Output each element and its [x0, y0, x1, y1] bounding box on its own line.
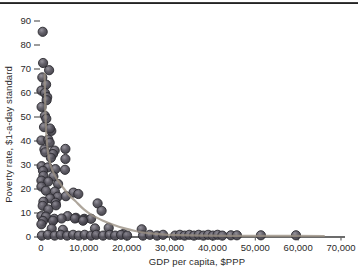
scatter-point	[38, 27, 47, 36]
y-tick-label: 50	[20, 111, 31, 122]
y-tick-label: 80	[20, 39, 31, 50]
y-tick-label: 30	[20, 159, 31, 170]
scatter-point	[57, 214, 66, 223]
x-tick-label: 70,000	[326, 242, 355, 253]
y-tick-label: 90	[20, 15, 31, 26]
y-tick-label: 70	[20, 63, 31, 74]
scatter-point	[45, 66, 54, 75]
x-tick-label: 10,000	[69, 242, 98, 253]
x-tick-label: 60,000	[284, 242, 313, 253]
x-tick-label: 40,000	[198, 242, 227, 253]
scatter-point	[78, 216, 87, 225]
scatter-point	[74, 189, 83, 198]
y-tick-label: 10	[20, 207, 31, 218]
scatter-point	[123, 231, 132, 240]
y-tick-label: 60	[20, 87, 31, 98]
scatter-plot-area: 0102030405060708090010,00020,00030,00040…	[0, 0, 358, 272]
scatter-point	[60, 165, 69, 174]
scatter-point	[61, 154, 70, 163]
scatter-point	[97, 206, 106, 215]
x-tick-label: 0	[38, 242, 43, 253]
y-tick-label: 0	[26, 231, 31, 242]
poverty-gdp-figure: Poverty rate, $1-a-day standard GDP per …	[0, 0, 358, 272]
x-tick-label: 30,000	[155, 242, 184, 253]
scatter-point	[61, 144, 70, 153]
scatter-point	[37, 220, 46, 229]
trend-curve	[45, 74, 324, 236]
y-tick-label: 40	[20, 135, 31, 146]
x-tick-label: 50,000	[241, 242, 270, 253]
x-tick-label: 20,000	[112, 242, 141, 253]
y-tick-label: 20	[20, 183, 31, 194]
